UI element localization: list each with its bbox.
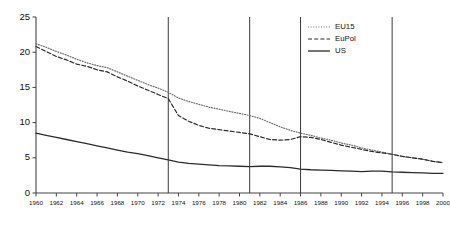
chart-legend: EU15EuPolUS: [308, 22, 356, 55]
x-axis-tick-label: 1980: [233, 199, 247, 206]
x-axis-tick-label: 1972: [151, 199, 165, 206]
x-axis-tick-label: 1964: [70, 199, 84, 206]
y-axis-tick-label: 15: [19, 81, 30, 92]
x-axis-tick-label: 1976: [192, 199, 206, 206]
x-axis-tick-label: 1988: [314, 199, 328, 206]
legend-label-eupol: EuPol: [335, 34, 356, 43]
x-axis-tick-label: 1962: [49, 199, 63, 206]
series-line-eu15: [36, 44, 443, 163]
data-series-group: [36, 44, 443, 174]
x-axis-tick-label: 1970: [131, 199, 145, 206]
x-axis-tick-label: 1978: [212, 199, 226, 206]
x-axis-tick-label: 1990: [334, 199, 348, 206]
chart-canvas: 0510152025 19601962196419661968197019721…: [0, 0, 450, 227]
x-axis-tick-label: 1960: [29, 199, 43, 206]
x-axis-tick-label: 1996: [395, 199, 409, 206]
x-axis-tick-label: 1994: [375, 199, 389, 206]
x-axis-tick-label: 1998: [416, 199, 430, 206]
x-axis-tick-label: 1982: [253, 199, 267, 206]
y-axis-tick-label: 25: [19, 11, 30, 22]
line-chart: 0510152025 19601962196419661968197019721…: [0, 0, 450, 227]
x-axis-tick-label: 2000: [436, 199, 450, 206]
y-axis: 0510152025: [19, 11, 36, 198]
legend-label-eu15: EU15: [335, 22, 355, 31]
x-axis-tick-label: 1984: [273, 199, 287, 206]
x-axis-tick-label: 1966: [90, 199, 104, 206]
y-axis-tick-label: 20: [19, 46, 30, 57]
x-axis-tick-label: 1992: [355, 199, 369, 206]
x-axis-tick-label: 1974: [172, 199, 186, 206]
x-axis-tick-label: 1968: [111, 199, 125, 206]
y-axis-tick-label: 10: [19, 116, 30, 127]
x-axis-tick-label: 1986: [294, 199, 308, 206]
y-axis-tick-label: 5: [25, 151, 30, 162]
legend-label-us: US: [335, 46, 346, 55]
y-axis-tick-label: 0: [25, 187, 30, 198]
x-axis: 1960196219641966196819701972197419761978…: [29, 193, 450, 206]
